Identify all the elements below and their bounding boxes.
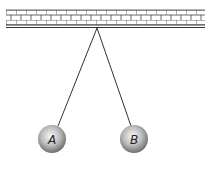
string-a [58,28,97,126]
ball-a-label: A [47,133,56,147]
ball-a: A [38,125,66,153]
ceiling-wall [6,10,205,28]
pendulum-diagram: A B [0,0,208,171]
ball-b: B [120,125,148,153]
string-b [97,28,131,126]
ball-b-label: B [130,133,138,147]
